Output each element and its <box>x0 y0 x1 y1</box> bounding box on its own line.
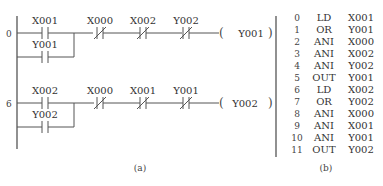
contact-label: Y001 <box>31 39 58 50</box>
svg-text:0: 0 <box>294 13 300 23</box>
svg-text:ANI: ANI <box>313 108 334 119</box>
no-contact-icon <box>42 121 48 133</box>
ladder-diagram-figure: 0 X001 Y001 X000 <box>0 0 383 186</box>
instruction-row: 9 ANI X001 <box>294 120 374 131</box>
coil-label: Y002 <box>231 98 258 109</box>
contact-label: X002 <box>32 85 58 96</box>
svg-text:ANI: ANI <box>313 120 334 131</box>
contact-label: X001 <box>130 85 156 96</box>
svg-text:10: 10 <box>291 133 303 143</box>
svg-text:ANI: ANI <box>313 36 334 47</box>
rung-step-number: 6 <box>6 99 12 109</box>
instruction-list: 0 LD X001 1 OR Y001 2 ANI X000 3 ANI X00… <box>291 12 374 155</box>
coil-label: Y001 <box>237 28 264 39</box>
instruction-row: 8 ANI X000 <box>294 108 374 119</box>
svg-text:OUT: OUT <box>312 144 336 155</box>
svg-text:7: 7 <box>294 97 300 107</box>
svg-text:(: ( <box>219 96 224 110</box>
svg-text:4: 4 <box>294 61 300 71</box>
instruction-row: 11 OUT Y002 <box>291 144 374 155</box>
svg-text:LD: LD <box>317 12 332 23</box>
contact-label: X001 <box>32 15 58 26</box>
instruction-row: 1 OR Y001 <box>294 24 374 35</box>
instruction-row: 4 ANI Y002 <box>294 60 374 71</box>
instruction-row: 10 ANI Y001 <box>291 132 374 143</box>
svg-text:): ) <box>268 26 273 40</box>
instruction-row: 0 LD X001 <box>294 12 374 23</box>
svg-text:X002: X002 <box>348 84 374 95</box>
svg-text:Y002: Y002 <box>347 96 374 107</box>
caption-a: (a) <box>134 163 146 173</box>
svg-text:X001: X001 <box>348 120 374 131</box>
svg-text:Y001: Y001 <box>347 24 374 35</box>
svg-text:OR: OR <box>316 96 332 107</box>
rung-0: 0 X001 Y001 X000 <box>6 15 273 63</box>
contact-label: Y002 <box>172 15 199 26</box>
instruction-row: 5 OUT Y001 <box>294 72 374 83</box>
rung-6: 6 X002 Y002 X000 X001 <box>6 85 273 133</box>
svg-text:): ) <box>268 96 273 110</box>
instruction-row: 6 LD X002 <box>294 84 374 95</box>
svg-text:3: 3 <box>294 49 300 59</box>
svg-text:Y001: Y001 <box>347 132 374 143</box>
no-contact-icon <box>42 51 48 63</box>
contact-label: X002 <box>130 15 156 26</box>
svg-text:Y001: Y001 <box>347 72 374 83</box>
svg-text:OUT: OUT <box>312 72 336 83</box>
svg-text:X000: X000 <box>348 108 374 119</box>
contact-label: X000 <box>87 15 113 26</box>
svg-text:8: 8 <box>294 109 300 119</box>
svg-text:ANI: ANI <box>313 48 334 59</box>
svg-text:X002: X002 <box>348 48 374 59</box>
instruction-row: 2 ANI X000 <box>294 36 374 47</box>
contact-label: Y002 <box>31 109 58 120</box>
rung-step-number: 0 <box>6 29 12 39</box>
svg-text:(: ( <box>219 26 224 40</box>
svg-text:X001: X001 <box>348 12 374 23</box>
svg-text:ANI: ANI <box>313 60 334 71</box>
svg-text:5: 5 <box>294 73 300 83</box>
caption-b: (b) <box>320 163 333 173</box>
svg-text:1: 1 <box>294 25 300 35</box>
contact-label: Y001 <box>172 85 199 96</box>
svg-text:2: 2 <box>294 37 300 47</box>
contact-label: X000 <box>87 85 113 96</box>
instruction-row: 3 ANI X002 <box>294 48 374 59</box>
instruction-row: 7 OR Y002 <box>294 96 374 107</box>
svg-text:ANI: ANI <box>313 132 334 143</box>
svg-text:LD: LD <box>317 84 332 95</box>
svg-text:Y002: Y002 <box>347 144 374 155</box>
svg-text:6: 6 <box>294 85 300 95</box>
svg-text:Y002: Y002 <box>347 60 374 71</box>
svg-text:OR: OR <box>316 24 332 35</box>
svg-text:11: 11 <box>291 145 302 155</box>
svg-text:X000: X000 <box>348 36 374 47</box>
no-contact-icon <box>42 27 48 39</box>
svg-text:9: 9 <box>294 121 300 131</box>
no-contact-icon <box>42 97 48 109</box>
